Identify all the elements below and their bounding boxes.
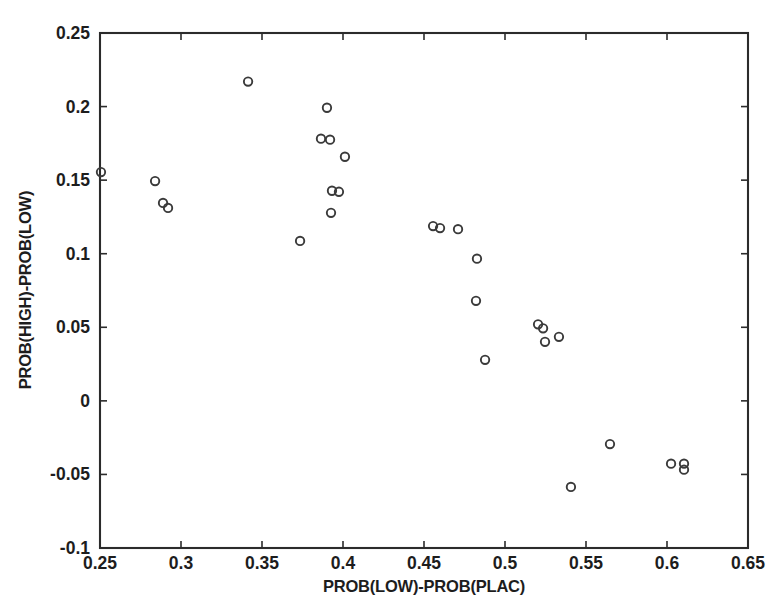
- x-axis-ticks: [100, 33, 748, 548]
- y-tick-label: -0.05: [50, 464, 90, 484]
- data-point-marker: [606, 440, 614, 448]
- data-point-marker: [326, 135, 334, 143]
- data-point-marker: [680, 466, 688, 474]
- data-point-marker: [481, 356, 489, 364]
- x-tick-label: 0.4: [331, 553, 356, 573]
- data-point-marker: [667, 459, 675, 467]
- y-tick-label: -0.1: [60, 538, 90, 558]
- x-axis-tick-labels: 0.250.30.350.40.450.50.550.60.65: [83, 553, 765, 573]
- x-tick-label: 0.45: [407, 553, 441, 573]
- y-tick-label: 0.1: [66, 244, 91, 264]
- scatter-plot-figure: 0.250.30.350.40.450.50.550.60.65 -0.1-0.…: [0, 0, 783, 612]
- data-point-marker: [151, 177, 159, 185]
- data-point-marker: [164, 204, 172, 212]
- x-tick-label: 0.3: [169, 553, 194, 573]
- y-tick-label: 0.15: [56, 170, 90, 190]
- y-axis-title: PROB(HIGH)-PROB(LOW): [16, 191, 34, 390]
- x-tick-label: 0.65: [731, 553, 765, 573]
- data-point-markers: [97, 77, 688, 491]
- data-point-marker: [296, 237, 304, 245]
- data-point-marker: [555, 333, 563, 341]
- y-tick-label: 0.25: [56, 23, 90, 43]
- x-tick-label: 0.6: [655, 553, 680, 573]
- data-point-marker: [473, 255, 481, 263]
- data-point-marker: [567, 483, 575, 491]
- data-point-marker: [244, 77, 252, 85]
- data-point-marker: [454, 225, 462, 233]
- data-point-marker: [323, 104, 331, 112]
- x-tick-label: 0.55: [569, 553, 603, 573]
- y-tick-label: 0.05: [56, 317, 90, 337]
- scatter-plot-canvas: 0.250.30.350.40.450.50.550.60.65 -0.1-0.…: [0, 0, 783, 612]
- data-point-marker: [159, 199, 167, 207]
- y-axis-tick-labels: -0.1-0.0500.050.10.150.20.25: [50, 23, 90, 558]
- x-tick-label: 0.5: [493, 553, 518, 573]
- x-axis-title: PROB(LOW)-PROB(PLAC): [323, 577, 525, 595]
- plot-frame-rect: [100, 33, 748, 548]
- y-tick-label: 0.2: [66, 97, 91, 117]
- data-point-marker: [317, 134, 325, 142]
- plot-frame: [100, 33, 748, 548]
- data-point-marker: [541, 338, 549, 346]
- data-point-marker: [472, 297, 480, 305]
- data-point-marker: [341, 153, 349, 161]
- x-tick-label: 0.35: [245, 553, 279, 573]
- data-point-marker: [327, 209, 335, 217]
- y-axis-ticks: [100, 33, 748, 548]
- y-tick-label: 0: [80, 391, 90, 411]
